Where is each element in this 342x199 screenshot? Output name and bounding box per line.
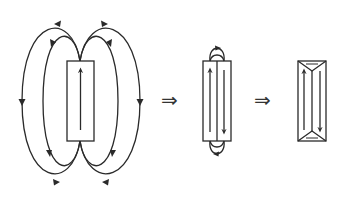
panel-two-domain	[203, 46, 231, 157]
implies-arrow-icon: ⇒	[161, 90, 178, 110]
implies-arrow-icon: ⇒	[254, 90, 271, 110]
panel-single-domain	[19, 21, 144, 186]
panel-closure-domain	[298, 61, 326, 141]
stray-field-bottom-inner	[210, 141, 224, 147]
closure-domain-bottom	[298, 131, 326, 141]
closure-domain-top	[298, 61, 326, 71]
stray-field-top-inner	[210, 55, 224, 61]
field-line-right-inner	[80, 36, 118, 165]
field-line-left-inner	[43, 36, 80, 165]
